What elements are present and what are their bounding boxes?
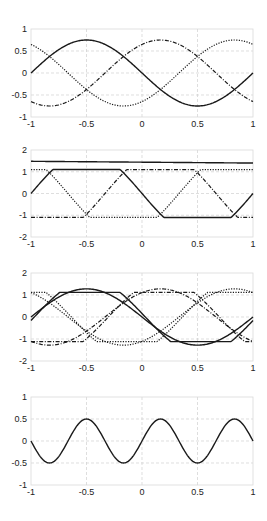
y-tick-label: -1 — [19, 112, 27, 122]
x-tick-label: 1 — [250, 119, 255, 129]
y-tick-label: -1 — [19, 480, 27, 490]
x-tick-label: 1 — [250, 363, 255, 373]
series-level — [31, 161, 253, 163]
x-tick-label: -0.5 — [79, 119, 95, 129]
series-ripple — [31, 419, 253, 463]
x-tick-label: 0.5 — [191, 119, 204, 129]
y-tick-label: -1 — [19, 334, 27, 344]
y-tick-label: 0 — [22, 68, 27, 78]
x-tick-label: 0 — [139, 119, 144, 129]
y-tick-label: 0 — [22, 312, 27, 322]
subplot-2: -2-1012-1-0.500.51 — [19, 145, 256, 249]
y-tick-label: 0.5 — [14, 414, 27, 424]
y-tick-label: -2 — [19, 232, 27, 242]
x-tick-label: 0.5 — [191, 363, 204, 373]
x-tick-label: -0.5 — [79, 239, 95, 249]
x-tick-label: 1 — [250, 239, 255, 249]
y-tick-label: 2 — [22, 145, 27, 155]
subplot-1: -1-0.500.51-1-0.500.51 — [11, 24, 255, 129]
y-tick-label: -1 — [19, 210, 27, 220]
x-tick-label: 0 — [139, 487, 144, 497]
x-tick-label: 0.5 — [191, 239, 204, 249]
x-tick-label: -1 — [27, 363, 35, 373]
x-tick-label: 0 — [139, 363, 144, 373]
x-tick-label: -1 — [27, 119, 35, 129]
subplot-3: -2-1012-1-0.500.51 — [19, 268, 256, 373]
y-tick-label: 0.5 — [14, 46, 27, 56]
y-tick-label: 1 — [22, 167, 27, 177]
y-tick-label: 1 — [22, 392, 27, 402]
y-tick-label: -0.5 — [11, 458, 27, 468]
x-tick-label: 0.5 — [191, 487, 204, 497]
y-tick-label: 1 — [22, 24, 27, 34]
y-tick-label: 2 — [22, 268, 27, 278]
x-tick-label: 1 — [250, 487, 255, 497]
y-tick-label: 0 — [22, 436, 27, 446]
x-tick-label: -1 — [27, 239, 35, 249]
x-tick-label: -1 — [27, 487, 35, 497]
x-tick-label: -0.5 — [79, 363, 95, 373]
figure: -1-0.500.51-1-0.500.51-2-1012-1-0.500.51… — [0, 0, 267, 521]
y-tick-label: -2 — [19, 356, 27, 366]
y-tick-label: 0 — [22, 189, 27, 199]
y-tick-label: 1 — [22, 290, 27, 300]
y-tick-label: -0.5 — [11, 90, 27, 100]
series-phase-a-sine- — [31, 289, 253, 345]
subplot-4: -1-0.500.51-1-0.500.51 — [11, 392, 255, 497]
x-tick-label: -0.5 — [79, 487, 95, 497]
x-tick-label: 0 — [139, 239, 144, 249]
